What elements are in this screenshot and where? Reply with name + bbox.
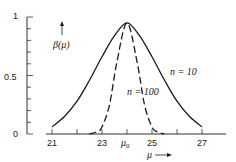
series-label-n10: n = 10 (170, 66, 197, 77)
svg-text:β(μ): β(μ) (52, 39, 70, 51)
x-tick-label-23: 23 (97, 138, 107, 148)
arrow-right-icon (167, 153, 172, 157)
arrow-up-icon (60, 21, 64, 26)
y-tick-label-0-5: 0.5 (4, 72, 17, 82)
series-n100-curve (90, 23, 165, 134)
y-axis (27, 17, 33, 134)
x-axis-label: μ (146, 149, 172, 160)
series-layer (52, 23, 202, 134)
series-label-n100: n = 100 (127, 86, 159, 97)
y-axis-label: β(μ) (52, 21, 70, 51)
x-tick-label-21: 21 (47, 138, 57, 148)
y-tick-label-0: 0 (13, 129, 18, 139)
svg-text:μ: μ (146, 149, 152, 160)
power-curve-chart: 1 0.5 0 21 23 μ0 25 27 β(μ) μ n = 10 n =… (0, 0, 236, 162)
y-tick-label-1: 1 (13, 11, 18, 21)
x-tick-label-mu0: μ0 (120, 137, 130, 150)
x-tick-label-25: 25 (147, 138, 157, 148)
x-tick-label-27: 27 (197, 138, 207, 148)
x-axis (46, 129, 226, 134)
